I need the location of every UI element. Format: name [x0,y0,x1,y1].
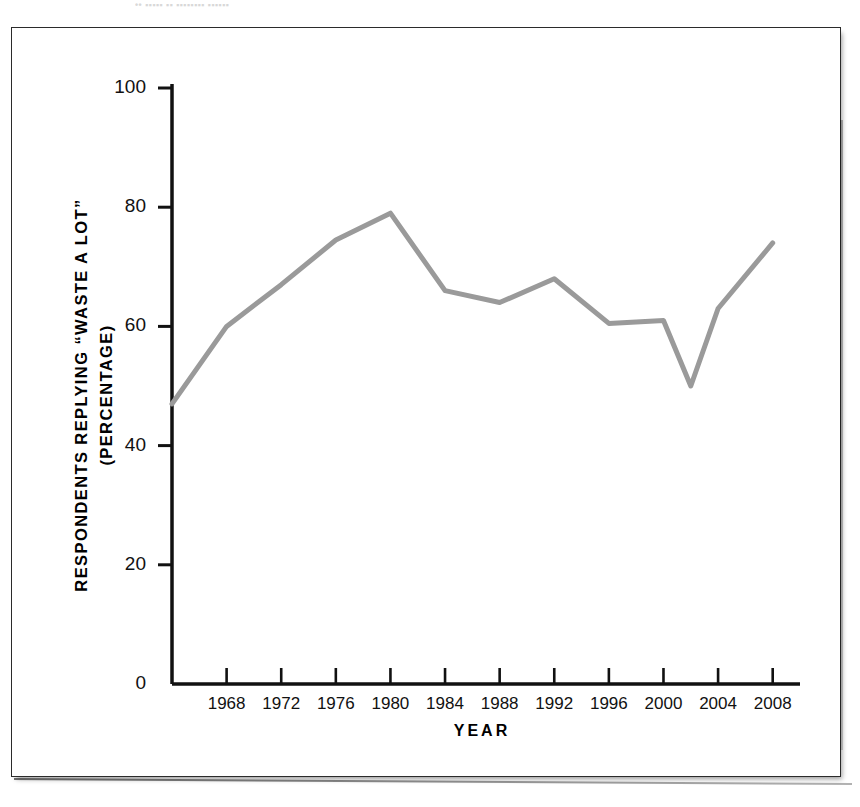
page-top-bleed-text: •• ▪▪▪▪▪ ▪▪ ▪▪▪▪▪▪▪▪ ▪▪▪▪▪▪ [135,0,435,11]
figure-frame-shadow [14,778,852,785]
figure-frame [11,27,841,777]
figure-page: •• ▪▪▪▪▪ ▪▪ ▪▪▪▪▪▪▪▪ ▪▪▪▪▪▪ RESPONDENTS … [0,0,860,807]
figure-frame-shadow-right [840,120,843,750]
